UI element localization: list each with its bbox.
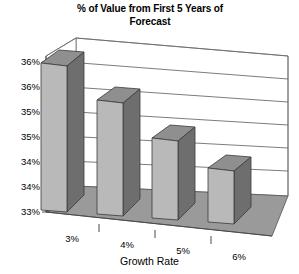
x-tick-label: 3% [65, 233, 79, 244]
x-tick-label: 4% [120, 239, 134, 250]
bar-column-3pct[interactable] [41, 50, 84, 212]
bar-column-5pct[interactable] [152, 125, 195, 220]
y-tick-label: 34% [21, 181, 41, 192]
y-axis-tick-labels: 36% 36% 35% 35% 34% 34% 33% [21, 56, 41, 217]
y-tick-label: 36% [21, 56, 41, 67]
chart-plot-area: 36% 36% 35% 35% 34% 34% 33% [0, 0, 299, 274]
x-axis-title: Growth Rate [0, 255, 299, 267]
y-tick-label: 36% [21, 81, 41, 92]
chart-container: % of Value from First 5 Years of Forecas… [0, 0, 299, 274]
y-tick-label: 34% [21, 156, 41, 167]
y-tick-label: 33% [21, 206, 41, 217]
y-tick-label: 35% [21, 131, 41, 142]
bar-column-6pct[interactable] [208, 155, 251, 224]
bar-column-4pct[interactable] [97, 87, 140, 216]
y-tick-label: 35% [21, 106, 41, 117]
